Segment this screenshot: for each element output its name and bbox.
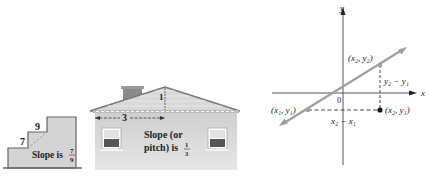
house-chimney-cap (121, 86, 144, 89)
house-window-right (206, 128, 229, 151)
point-x1-y1 (306, 108, 311, 113)
run-label: x₂ − x₁ (330, 116, 356, 126)
house-rise-label: 1 (159, 92, 164, 102)
point3-label: (x₂, y₁) (385, 105, 410, 115)
house-slope-numerator: 1 (185, 141, 188, 148)
house-slope-line1: Slope (or (144, 129, 183, 141)
stairs-run-label: 9 (35, 121, 40, 132)
x-axis-arrow (409, 91, 417, 96)
house-window-left (100, 128, 123, 151)
point-x2-y2 (378, 63, 383, 68)
house-run-label: 3 (122, 112, 127, 123)
house-figure: 1 3 Slope (or pitch) is 1 3 (90, 86, 240, 170)
stairs-figure: 9 7 Slope is 7 9 (3, 117, 82, 168)
stairs-slope-denominator: 9 (70, 156, 74, 164)
stairs-slope-numerator: 7 (70, 147, 74, 155)
stairs-slope-text: Slope is (32, 150, 63, 160)
stairs-shape (8, 117, 76, 168)
house-slope-line2: pitch) is (144, 142, 178, 154)
origin-label: 0 (337, 95, 341, 105)
slope-coordinate-graph: x y 0 (x₁, y₁) (x₂, y₂) (x₂, y₁) y₂ − y₁… (271, 3, 425, 165)
point1-label: (x₁, y₁) (271, 105, 296, 115)
point2-label: (x₂, y₂) (348, 53, 373, 63)
y-axis-label: y (339, 3, 344, 13)
slope-line-arrow-up (398, 47, 407, 55)
x-axis-label: x (420, 88, 425, 98)
rise-label: y₂ − y₁ (383, 76, 409, 86)
slope-line-arrow-down (279, 119, 288, 127)
point-x2-y1 (377, 107, 382, 112)
stairs-rise-label: 7 (20, 136, 25, 147)
